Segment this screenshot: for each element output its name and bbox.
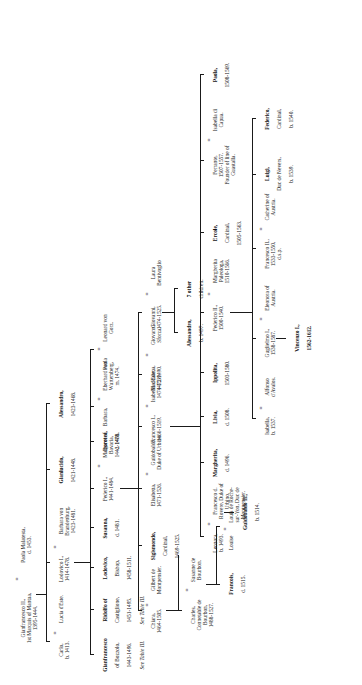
person-dates: 1414-1478. [64,557,70,582]
node-giovanni-spouse: Laura Bentivoglio [144,255,162,291]
tick-ferrante [200,160,204,161]
person-dates: 1443-1496. [126,628,132,682]
tick-giovanni [138,312,142,313]
node-margherita-d1496: Margherita, d. 1496. [206,439,236,487]
person-name: Federico, [264,95,270,143]
spouse-name: Alfonso d'Avalos. [264,377,276,397]
node-gianfrancesco-ii-person: Gianfrancesco II., 1st Marquis of Mantua… [14,582,38,654]
marriage-symbol: = [144,602,150,608]
tick-luigi-nevers [252,174,256,175]
person-name: Ercole, [212,209,218,257]
node-giovanni-person: Giovanni, 1474-1525. [144,297,162,337]
node-ferrante-spouse: Isabella di Capua. [206,103,224,137]
person-name: Carlo, [58,643,64,656]
node-carlo: Carlo, b. 1413. = Lucia d'Este. [52,585,70,667]
connector-federico-i-drop [120,488,138,489]
tick-elisabetta [138,488,142,489]
node-charles-bourbon-spouse: Susanne de Bourbon. [184,553,202,587]
node-federico-ii: Federico II., 1500-1540. = Margherita Pa… [206,247,230,343]
marriage-symbol: = [14,576,20,582]
spouse-name: Susanne de Bourbon. [190,558,202,582]
person-dates: 1503-1580. [224,349,230,397]
person-title: Cardinal, [224,209,230,257]
person-name: Lodovico, [102,545,108,591]
connector-chiara-drop [166,610,178,611]
marriage-symbol: = [206,291,212,297]
connector-gen1-drop [36,594,46,595]
person-name: Federico I., [102,477,108,502]
person-dates: 1451-1495. [126,584,132,636]
connector-federico-ii-drop [230,312,252,313]
connector-chiara-children-bar [178,555,179,611]
node-chiara-person: Chiara, 1464-1505. [144,608,162,634]
person-name: Guidobaldo II., [242,485,248,539]
tick-francois [216,584,220,585]
marriage-symbol: = [206,521,212,527]
marriage-symbol: = [52,544,58,550]
connector-gen5-main-bar [200,75,201,537]
person-dates: d. 1496. [224,439,230,487]
person-name: Charles, [190,606,196,624]
node-paola-person: Paola [96,352,108,376]
node-lodovico-bishop: Lodovico, Bishop, 1458-1511. [96,545,139,591]
person-name: Leonora, [212,533,218,552]
tick-ippolita [200,372,204,373]
marriage-symbol: = [144,291,150,297]
tick-sigismondo-cardinal [138,545,142,546]
connector-gen2-sibling-bar [46,404,47,642]
marriage-symbol: = [96,463,102,469]
person-title: of Bozzolo, [114,628,120,682]
person-dates: 1458-1511. [126,545,132,591]
node-ferrante-person: Ferrante, 1507-1557. Founder of line of … [206,143,236,187]
marriage-symbol: = [184,587,190,593]
node-gianfrancesco-ii: Gianfrancesco II., 1st Marquis of Mantua… [14,509,38,659]
tick-paola-2 [200,74,204,75]
tick-federico-ii [200,312,204,313]
spouse-name: Isabella di Capua. [212,109,224,131]
node-paola-2: Paola, 1508-1569. [206,53,236,97]
person-title: Cardinal, [276,95,282,143]
person-dates: 1421-1448. [70,443,76,497]
node-guglielmo-i: Guglielmo I., 1538-1587. = Eleonora of A… [258,277,276,367]
tick-lodovico-i [46,562,50,563]
person-dates: 1562-1612. [306,311,312,365]
person-dates: d. 1508. [224,397,230,437]
person-name: Vincenzo I., [294,311,300,365]
connector-giovanni-drop [162,312,174,313]
node-giovanni: Giovanni, 1474-1525. = Laura Bentivoglio [144,253,162,339]
node-federico-cardinal: Federico, Cardinal, b. 1540. [258,95,301,143]
tick-francesco-iii [252,248,256,249]
node-paola-spouse: Leonard von Gorz. [96,310,114,346]
person-name: Gianfrancesco II., [20,599,26,638]
spouse-name: Margherita Paleologa, [212,259,224,283]
tick-barbara [90,406,94,407]
person-dates: 1508-1569. [224,53,230,97]
person-name: 7 other [186,269,192,309]
person-name: Giovanni, [150,306,156,327]
person-title: 1st Marquis of Mantua, [26,593,32,644]
connector-lodovico-drop [74,562,90,563]
person-title: Founder of line of Guastalla. [224,145,236,184]
marriage-symbol: = [144,352,150,358]
person-dates: d. 1515. [240,563,246,605]
person-dates: b. 1514. [254,485,260,539]
node-federico-ii-person: Federico II., 1500-1540. [206,297,224,339]
person-dates: b. 1539. [288,145,294,203]
person-dates: 1488-1527. [208,603,214,628]
person-dates: b. 1540. [288,95,294,143]
tick-guglielmo-i [252,338,256,339]
connector-giovanni-children-bar [174,289,175,333]
person-dates: 1441-1484. [108,477,114,502]
person-dates: 1466-1519. [156,417,162,442]
node-leonora-person: Leonora, b. 1493. [206,527,224,559]
person-name: Lodovico I., [58,556,64,583]
person-title: Connetable de Bourbon, [196,599,208,630]
node-isabella-b1537-person: Isabella, b. 1537. [258,411,276,441]
person-name: Elisabetta, [150,484,156,507]
node-isabella-b1537: Isabella, b. 1537. = Alfonso d'Avalos. [258,365,276,445]
person-name: Luigi, [264,145,270,203]
tick-gianlucido [46,469,50,470]
tick-francesco-i [138,426,142,427]
node-isabella-b1537-spouse: Alfonso d'Avalos. [258,369,276,405]
person-dates: 1474-1525. [156,305,162,330]
